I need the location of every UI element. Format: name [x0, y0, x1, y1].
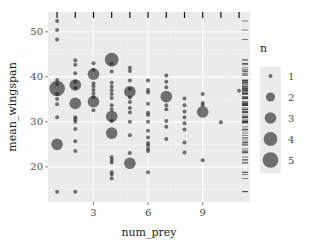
data-point — [55, 115, 59, 119]
data-point — [73, 120, 77, 124]
data-point — [128, 78, 132, 82]
legend-key — [264, 132, 278, 146]
data-point — [110, 119, 114, 123]
data-point — [164, 85, 168, 89]
data-point — [201, 92, 205, 96]
x-axis-title: num_prey — [121, 226, 177, 239]
legend-label: 3 — [288, 113, 294, 124]
data-point — [73, 127, 77, 131]
data-point — [164, 137, 168, 141]
data-point — [146, 102, 150, 106]
data-point — [146, 78, 150, 82]
data-point — [182, 128, 186, 132]
data-point — [110, 160, 114, 164]
data-point — [110, 92, 114, 96]
data-point — [91, 84, 95, 88]
data-point — [128, 96, 132, 100]
data-point — [128, 69, 132, 73]
legend-key — [266, 92, 275, 101]
data-point — [182, 150, 186, 154]
y-tick-label: 30 — [30, 116, 43, 127]
data-point — [91, 108, 95, 112]
data-point — [237, 89, 241, 93]
data-point — [182, 121, 186, 125]
data-point — [164, 119, 168, 123]
data-point — [146, 170, 150, 174]
data-point — [110, 173, 114, 177]
data-point — [91, 91, 95, 95]
size-legend: n 12345 — [260, 42, 294, 173]
data-point — [146, 136, 150, 140]
y-tick-label: 40 — [30, 71, 43, 82]
x-tick-label: 6 — [145, 207, 151, 218]
data-point — [128, 133, 132, 137]
y-axis: 20304050 — [30, 26, 48, 172]
data-point — [55, 28, 59, 32]
data-point — [182, 103, 186, 107]
data-point — [164, 80, 168, 84]
data-point — [55, 19, 59, 23]
data-point — [128, 100, 132, 104]
y-tick-label: 50 — [30, 26, 43, 37]
data-point — [146, 149, 150, 153]
data-point — [51, 139, 63, 151]
data-point — [201, 158, 205, 162]
x-tick-label: 9 — [199, 207, 205, 218]
data-point — [91, 88, 95, 92]
data-point — [110, 103, 114, 107]
data-point — [73, 139, 77, 143]
data-point — [219, 120, 223, 124]
data-point — [128, 151, 132, 155]
data-point — [69, 98, 81, 110]
legend-key — [265, 112, 277, 124]
data-point — [110, 62, 114, 66]
y-axis-title: mean_wingspan — [6, 62, 19, 151]
y-tick-label: 20 — [30, 161, 43, 172]
x-axis: 369 — [90, 202, 206, 218]
data-point — [146, 120, 150, 124]
data-point — [73, 71, 77, 75]
chart: 20304050 369 num_prey mean_wingspan n 12… — [0, 0, 319, 245]
data-point — [128, 110, 132, 114]
data-point — [110, 96, 114, 100]
data-point — [146, 129, 150, 133]
data-point — [88, 96, 100, 108]
legend-label: 1 — [288, 71, 294, 82]
data-point — [110, 107, 114, 111]
data-point — [106, 127, 118, 139]
legend-key — [263, 152, 279, 168]
legend-label: 2 — [288, 92, 294, 103]
data-point — [110, 177, 114, 181]
data-point — [146, 91, 150, 95]
data-point — [164, 103, 168, 107]
data-point — [73, 63, 77, 67]
legend-title: n — [260, 42, 267, 55]
data-point — [164, 107, 168, 111]
data-point — [55, 102, 59, 106]
data-point — [110, 88, 114, 92]
data-point — [197, 106, 209, 118]
data-point — [164, 125, 168, 129]
data-point — [110, 85, 114, 89]
data-point — [73, 58, 77, 62]
data-point — [55, 92, 59, 96]
data-point — [55, 97, 59, 101]
data-point — [124, 157, 136, 169]
legend-label: 5 — [288, 155, 294, 166]
data-point — [128, 120, 132, 124]
data-point — [55, 37, 59, 41]
data-point — [182, 110, 186, 114]
data-point — [73, 190, 77, 194]
data-point — [73, 86, 77, 90]
data-point — [55, 190, 59, 194]
data-point — [164, 73, 168, 77]
data-point — [110, 81, 114, 85]
data-point — [182, 96, 186, 100]
data-point — [160, 91, 172, 103]
data-point — [91, 61, 95, 65]
data-point — [110, 69, 114, 73]
data-point — [128, 106, 132, 110]
legend-label: 4 — [288, 134, 294, 145]
data-point — [146, 143, 150, 147]
data-point — [182, 115, 186, 119]
